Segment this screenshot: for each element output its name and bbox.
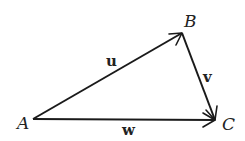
vector-label-u: u	[106, 52, 117, 70]
point-label-b: B	[183, 11, 197, 31]
vector-label-v: v	[202, 68, 213, 86]
vector-u	[33, 33, 182, 119]
vector-v	[182, 33, 217, 120]
vector-triangle-diagram: A B C u v w	[0, 0, 245, 141]
vector-label-w: w	[121, 121, 136, 139]
point-label-a: A	[15, 113, 29, 133]
point-label-c: C	[222, 114, 235, 134]
